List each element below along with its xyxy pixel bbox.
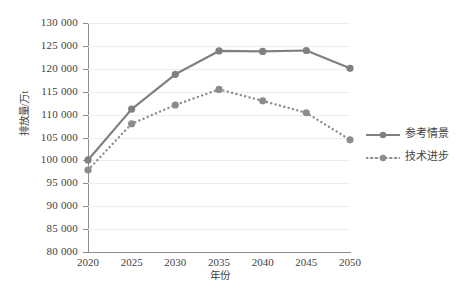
y-tick-label: 115 000 bbox=[0, 86, 78, 97]
y-tick-label: 130 000 bbox=[0, 17, 78, 28]
chart-legend: 参考情景 技术进步 bbox=[366, 124, 466, 170]
data-point bbox=[215, 47, 222, 54]
y-tick-label: 125 000 bbox=[0, 40, 78, 51]
y-tick-label: 85 000 bbox=[0, 223, 78, 234]
data-point bbox=[172, 71, 179, 78]
data-point bbox=[303, 109, 310, 116]
x-tick-label: 2050 bbox=[327, 256, 373, 268]
x-tick-label: 2030 bbox=[152, 256, 198, 268]
x-tick-label: 2045 bbox=[283, 256, 329, 268]
data-point bbox=[259, 48, 266, 55]
y-tick-label: 105 000 bbox=[0, 132, 78, 143]
data-point bbox=[84, 166, 91, 173]
data-point bbox=[128, 120, 135, 127]
data-point bbox=[303, 47, 310, 54]
legend-swatch-dotted bbox=[366, 150, 400, 162]
data-point bbox=[215, 86, 222, 93]
x-axis-title: 年份 bbox=[88, 270, 351, 281]
emissions-line-chart: 排放量/万t 年份 80 00085 00090 00095 000100 00… bbox=[0, 0, 469, 290]
legend-item-reference: 参考情景 bbox=[366, 124, 466, 142]
data-point bbox=[128, 106, 135, 113]
y-tick-label: 95 000 bbox=[0, 177, 78, 188]
series-line-1 bbox=[88, 50, 350, 159]
y-tick-label: 100 000 bbox=[0, 154, 78, 165]
legend-label-technology: 技术进步 bbox=[405, 150, 449, 162]
data-point bbox=[346, 65, 353, 72]
series-line-2 bbox=[88, 89, 350, 170]
x-tick-label: 2040 bbox=[240, 256, 286, 268]
plot-area bbox=[88, 23, 350, 252]
x-tick-label: 2020 bbox=[65, 256, 111, 268]
series-layer bbox=[88, 23, 350, 252]
x-tick-label: 2025 bbox=[109, 256, 155, 268]
legend-label-reference: 参考情景 bbox=[405, 127, 449, 139]
y-tick-label: 110 000 bbox=[0, 109, 78, 120]
data-point bbox=[346, 136, 353, 143]
y-tick-label: 120 000 bbox=[0, 63, 78, 74]
x-tick-label: 2035 bbox=[196, 256, 242, 268]
data-point bbox=[84, 156, 91, 163]
legend-swatch-solid bbox=[366, 127, 400, 139]
gridline bbox=[88, 252, 350, 253]
data-point bbox=[172, 101, 179, 108]
legend-item-technology: 技术进步 bbox=[366, 147, 466, 165]
y-tick-label: 90 000 bbox=[0, 200, 78, 211]
data-point bbox=[259, 97, 266, 104]
